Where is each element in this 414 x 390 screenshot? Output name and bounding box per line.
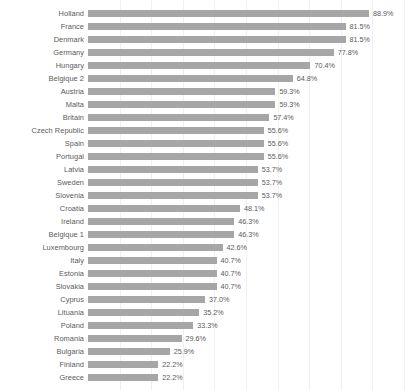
category-label: France [0, 20, 84, 33]
bar-value-label: 33.3% [197, 319, 217, 332]
bar-value-label: 46.3% [238, 215, 258, 228]
bar-value-label: 40.7% [221, 280, 241, 293]
bar [88, 49, 334, 56]
bar-value-label: 64.8% [297, 72, 317, 85]
category-label: Romania [0, 332, 84, 345]
bar-row: Romania29.6% [0, 332, 414, 345]
bar [88, 348, 170, 355]
bar-row: Belgique 146.3% [0, 228, 414, 241]
bar-value-label: 57.4% [273, 111, 293, 124]
bar [88, 127, 264, 134]
category-label: Lituania [0, 306, 84, 319]
bar-row: Belgique 264.8% [0, 72, 414, 85]
category-label: Slovakia [0, 280, 84, 293]
bar-rows: Holland88.9%France81.5%Denmark81.5%Germa… [0, 7, 414, 384]
bar-row: Hungary70.4% [0, 59, 414, 72]
category-label: Britain [0, 111, 84, 124]
bar-value-label: 88.9% [373, 7, 393, 20]
bar-container: 57.4% [88, 111, 414, 124]
bar [88, 322, 193, 329]
bar-row: Latvia53.7% [0, 163, 414, 176]
bar-container: 59.3% [88, 85, 414, 98]
bar-row: Spain55.6% [0, 137, 414, 150]
bar-row: Cyprus37.0% [0, 293, 414, 306]
category-label: Greece [0, 371, 84, 384]
bar-container: 40.7% [88, 254, 414, 267]
bar-container: 81.5% [88, 20, 414, 33]
bar [88, 114, 269, 121]
bar-container: 22.2% [88, 371, 414, 384]
bar-value-label: 29.6% [186, 332, 206, 345]
bar-value-label: 22.2% [162, 358, 182, 371]
bar [88, 283, 217, 290]
bar-container: 46.3% [88, 215, 414, 228]
bar [88, 153, 264, 160]
bar [88, 309, 199, 316]
bar-row: Holland88.9% [0, 7, 414, 20]
bar-value-label: 53.7% [262, 163, 282, 176]
bar-container: 55.6% [88, 124, 414, 137]
bar-container: 55.6% [88, 137, 414, 150]
bar-container: 40.7% [88, 280, 414, 293]
category-label: Malta [0, 98, 84, 111]
category-label: Sweden [0, 176, 84, 189]
bar [88, 361, 158, 368]
bar-container: 35.2% [88, 306, 414, 319]
bar-value-label: 59.3% [279, 85, 299, 98]
bar-row: Czech Republic55.6% [0, 124, 414, 137]
bar-value-label: 46.3% [238, 228, 258, 241]
category-label: Latvia [0, 163, 84, 176]
bar-row: Denmark81.5% [0, 33, 414, 46]
bar-value-label: 55.6% [268, 124, 288, 137]
bar [88, 270, 217, 277]
bar-row: Croatia48.1% [0, 202, 414, 215]
bar-container: 46.3% [88, 228, 414, 241]
category-label: Croatia [0, 202, 84, 215]
bar [88, 62, 310, 69]
bar-row: Slovenia53.7% [0, 189, 414, 202]
bar [88, 335, 182, 342]
bar-container: 48.1% [88, 202, 414, 215]
category-label: Holland [0, 7, 84, 20]
bar-row: Germany77.8% [0, 46, 414, 59]
bar-container: 55.6% [88, 150, 414, 163]
category-label: Hungary [0, 59, 84, 72]
category-label: Estonia [0, 267, 84, 280]
bar-container: 33.3% [88, 319, 414, 332]
bar-row: Ireland46.3% [0, 215, 414, 228]
bar-row: Austria59.3% [0, 85, 414, 98]
category-label: Spain [0, 137, 84, 150]
bar-row: Bulgaria25.9% [0, 345, 414, 358]
bar-container: 53.7% [88, 176, 414, 189]
bar [88, 88, 275, 95]
category-label: Belgique 1 [0, 228, 84, 241]
bar [88, 244, 223, 251]
bar [88, 140, 264, 147]
category-label: Finland [0, 358, 84, 371]
bar-value-label: 53.7% [262, 176, 282, 189]
bar-value-label: 40.7% [221, 267, 241, 280]
bar [88, 179, 258, 186]
category-label: Austria [0, 85, 84, 98]
category-label: Bulgaria [0, 345, 84, 358]
bar-row: Malta59.3% [0, 98, 414, 111]
category-label: Belgique 2 [0, 72, 84, 85]
bar-value-label: 35.2% [203, 306, 223, 319]
bar-row: Greece22.2% [0, 371, 414, 384]
bar-row: Poland33.3% [0, 319, 414, 332]
bar-row: Estonia40.7% [0, 267, 414, 280]
bar [88, 23, 346, 30]
bar-container: 22.2% [88, 358, 414, 371]
bar-container: 88.9% [88, 7, 414, 20]
category-label: Poland [0, 319, 84, 332]
bar-value-label: 55.6% [268, 137, 288, 150]
bar-container: 64.8% [88, 72, 414, 85]
bar-value-label: 42.6% [227, 241, 247, 254]
bar [88, 218, 234, 225]
bar-value-label: 48.1% [244, 202, 264, 215]
bar-container: 53.7% [88, 163, 414, 176]
category-label: Slovenia [0, 189, 84, 202]
bar-container: 53.7% [88, 189, 414, 202]
bar-row: Luxembourg42.6% [0, 241, 414, 254]
bar-container: 40.7% [88, 267, 414, 280]
